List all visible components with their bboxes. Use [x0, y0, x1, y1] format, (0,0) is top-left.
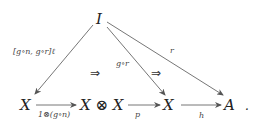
- label-r: r: [170, 46, 175, 55]
- two-cell-left-double-arrow-icon: ⇒: [90, 66, 100, 80]
- label-p: p: [135, 110, 140, 119]
- terminal-period: .: [245, 99, 249, 113]
- arrow-I-to-X-left: [35, 25, 93, 94]
- label-1-tensor-g-n: 1⊗(g∘n): [38, 110, 70, 119]
- node-X-left: X: [19, 96, 32, 114]
- commutative-diagram: I X X ⊗ X X A . [g∘n, g∘r]ℓ g∘r r 1⊗(g∘n…: [0, 0, 257, 121]
- two-cell-right-double-arrow-icon: ⇒: [151, 66, 161, 80]
- node-I: I: [95, 10, 103, 28]
- node-X-middle: X: [162, 96, 175, 114]
- label-g-r: g∘r: [116, 59, 130, 68]
- node-X-tensor-X: X ⊗ X: [79, 96, 125, 114]
- label-g-n-g-r-l: [g∘n, g∘r]ℓ: [13, 47, 55, 56]
- node-A: A: [222, 96, 235, 114]
- label-h: h: [199, 111, 204, 120]
